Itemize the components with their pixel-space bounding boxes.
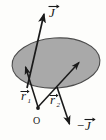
plane-ellipse-shape (10, 35, 101, 91)
label-r2-vector-arrowhead (56, 94, 59, 98)
label-j-down-minus-sign: − (76, 118, 85, 133)
label-r1: r 1 (21, 88, 32, 105)
label-r2-subscript: 2 (57, 101, 61, 109)
label-j-up-vector-arrowhead (57, 4, 60, 8)
label-r1-subscript: 1 (28, 97, 32, 105)
label-r1-text: r (21, 88, 27, 103)
label-j-down-text: J (85, 118, 92, 133)
label-j-down-vector-arrowhead (93, 117, 96, 121)
label-origin: O (33, 115, 40, 126)
label-j-up: J (49, 4, 60, 20)
origin-point (36, 106, 40, 110)
label-j-up-text: J (49, 5, 56, 20)
label-j-down: − J (76, 117, 96, 133)
vector-diagram-figure: J − J r 1 r 2 O (0, 0, 106, 140)
label-r1-vector-arrowhead (27, 90, 30, 94)
elliptical-plane (10, 35, 101, 91)
vector-diagram-canvas: J − J r 1 r 2 O (0, 0, 106, 140)
label-r2-text: r (50, 92, 56, 107)
